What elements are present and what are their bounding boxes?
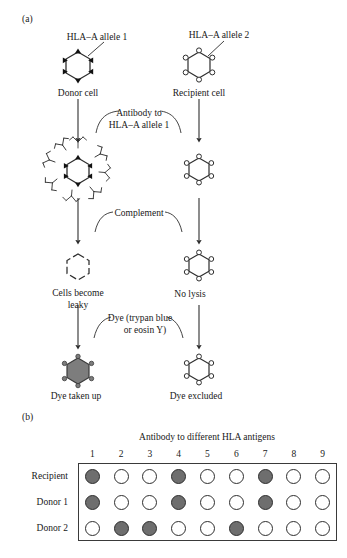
well-recipient-5-negative — [200, 469, 215, 484]
step-complement-arrows — [78, 198, 199, 242]
well-donor-1-5-negative — [200, 495, 215, 510]
row-header-column: RecipientDonor 1Donor 2 — [0, 463, 74, 541]
well-recipient-9-negative — [315, 469, 330, 484]
well-plate-grid — [78, 463, 337, 541]
well-donor-2-1-negative — [85, 521, 100, 536]
well-donor-2-5-negative — [200, 521, 215, 536]
column-header-3: 3 — [148, 449, 153, 459]
column-header-8: 8 — [291, 449, 296, 459]
column-header-9: 9 — [320, 449, 325, 459]
recipient-cell-unbound-icon — [184, 154, 213, 185]
figure-root: (a) HLA–A allele 1 HLA–A allele 2 Donor … — [0, 0, 347, 558]
well-recipient-6-negative — [229, 469, 244, 484]
well-donor-2-8-negative — [286, 521, 301, 536]
well-donor-1-6-negative — [229, 495, 244, 510]
column-header-row: 123456789 — [78, 447, 337, 460]
well-recipient-3-negative — [142, 469, 157, 484]
well-donor-2-3-positive — [142, 521, 157, 536]
column-header-4: 4 — [176, 449, 181, 459]
well-donor-2-9-negative — [315, 521, 330, 536]
intact-cell-icon — [184, 250, 213, 281]
well-recipient-2-negative — [114, 469, 129, 484]
column-header-2: 2 — [119, 449, 124, 459]
well-donor-1-2-negative — [114, 495, 129, 510]
well-recipient-7-positive — [258, 469, 273, 484]
well-donor-1-9-negative — [315, 495, 330, 510]
well-donor-1-8-negative — [286, 495, 301, 510]
well-donor-1-4-positive — [171, 495, 186, 510]
well-donor-1-7-positive — [258, 495, 273, 510]
column-header-6: 6 — [234, 449, 239, 459]
well-recipient-4-positive — [171, 469, 186, 484]
row-header-donor-1: Donor 1 — [37, 497, 74, 507]
column-header-7: 7 — [263, 449, 268, 459]
antibody-coated-cell-icon — [42, 136, 111, 202]
panel-b-tag: (b) — [22, 412, 33, 422]
well-donor-1-3-negative — [142, 495, 157, 510]
well-donor-2-4-negative — [171, 521, 186, 536]
step-antibody-arrows — [78, 99, 199, 140]
dye-stained-cell-icon — [62, 354, 93, 388]
recipient-cell-icon — [183, 41, 224, 82]
donor-cell-icon — [63, 42, 104, 83]
well-donor-1-1-positive — [85, 495, 100, 510]
row-header-recipient: Recipient — [32, 471, 74, 481]
column-header-1: 1 — [90, 449, 95, 459]
row-header-donor-2: Donor 2 — [37, 523, 74, 533]
well-recipient-1-positive — [85, 469, 100, 484]
step-dye-arrows — [78, 305, 199, 347]
column-header-5: 5 — [205, 449, 210, 459]
well-donor-2-2-positive — [114, 521, 129, 536]
well-donor-2-6-positive — [229, 521, 244, 536]
leaky-cell-icon — [67, 254, 89, 280]
panel-b-title: Antibody to different HLA antigens — [139, 432, 275, 442]
well-recipient-8-negative — [286, 469, 301, 484]
well-donor-2-7-negative — [258, 521, 273, 536]
dye-excluded-cell-icon — [184, 354, 213, 385]
